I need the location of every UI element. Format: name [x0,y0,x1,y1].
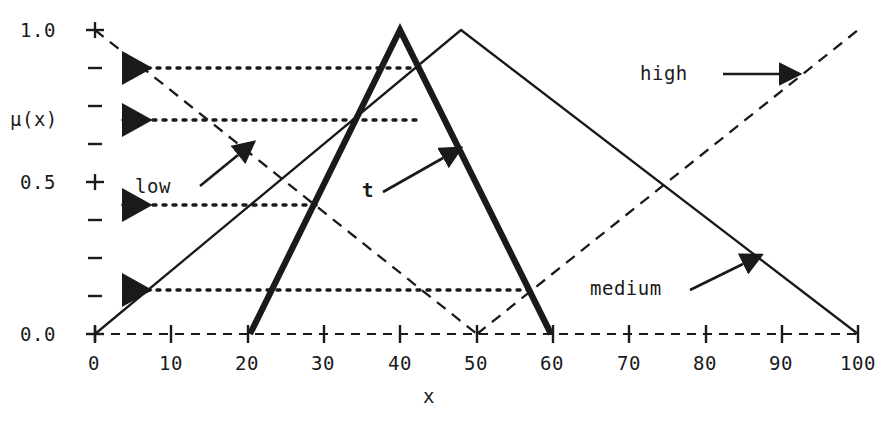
x-tick-label-50: 50 [464,352,488,374]
x-axis-label: x [423,385,435,407]
y-tick-label-0.5: 0.5 [20,171,56,193]
t-annotation-arrow [383,158,443,192]
x-tick-label-40: 40 [388,352,412,374]
x-tick-label-10: 10 [159,352,183,374]
x-tick-label-30: 30 [311,352,335,374]
x-tick-label-60: 60 [540,352,564,374]
y-axis-ticks [86,22,104,342]
x-tick-label-70: 70 [617,352,641,374]
x-tick-label-90: 90 [769,352,793,374]
x-tick-label-100: 100 [840,352,876,374]
series-label-low: low [135,175,171,197]
series-label-t: t [362,179,374,201]
x-tick-label-80: 80 [693,352,717,374]
y-tick-label-0.0: 0.0 [20,323,56,345]
series-label-high: high [640,62,688,84]
fuzzy-membership-chart: 1.0 0.5 0.0 μ(x) 0 10 20 30 40 50 60 70 … [0,0,892,425]
y-tick-label-1.0: 1.0 [20,19,56,41]
x-tick-label-20: 20 [235,352,259,374]
low-annotation-arrow [200,155,238,186]
chart-canvas [0,0,892,425]
x-tick-label-0: 0 [88,352,100,374]
y-axis-label: μ(x) [10,108,58,130]
medium-annotation-arrow [690,264,743,290]
series-label-medium: medium [590,277,662,299]
